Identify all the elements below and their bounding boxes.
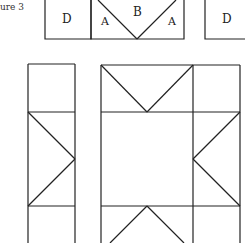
label-right-d: D (222, 12, 232, 26)
label-b: B (133, 5, 142, 19)
quilt-block-diagram (0, 0, 245, 243)
top-row-pieces (45, 0, 245, 39)
left-strip (28, 64, 75, 243)
main-block (101, 65, 240, 243)
label-triangle-left-a: A (101, 15, 109, 28)
label-left-d: D (62, 12, 72, 26)
label-triangle-right-a: A (168, 15, 176, 28)
